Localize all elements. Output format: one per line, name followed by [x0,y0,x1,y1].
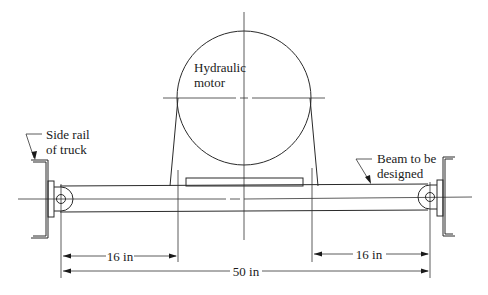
label-side-rail: Side rail of truck [26,127,90,160]
dim-left-label: 16 in [107,249,134,264]
svg-text:designed: designed [377,166,424,181]
right-side-rail [418,157,455,278]
svg-text:Hydraulic: Hydraulic [194,60,246,75]
motor-support-right [310,98,318,186]
motor-support-left [170,98,178,186]
leader-arrow-icon [365,175,371,184]
dim-right-label: 16 in [356,247,383,262]
dimension-left-16in: 16 in [63,249,177,264]
beam-motor-diagram: 16 in 16 in 50 in Hydraulic motor Side r… [0,0,488,295]
right-bracket [437,180,443,216]
arrow-right-icon [421,252,429,257]
arrow-right-icon [169,254,177,259]
label-hydraulic-motor: Hydraulic motor [194,60,246,90]
beam [18,184,472,212]
dim-total-label: 50 in [233,264,260,279]
left-side-rail [31,160,73,278]
svg-text:Beam to be: Beam to be [377,151,436,166]
dimension-total-50in: 50 in [63,264,429,279]
svg-text:of truck: of truck [46,142,87,157]
arrow-left-icon [314,252,322,257]
svg-text:motor: motor [194,75,226,90]
hydraulic-motor [163,12,325,240]
beam-centerline-right [244,197,472,199]
arrow-left-icon [63,254,71,259]
leader-arrow-icon [32,151,38,160]
arrow-left-icon [63,269,71,274]
dimension-right-16in: 16 in [314,247,429,262]
arrow-right-icon [421,269,429,274]
label-beam: Beam to be designed [356,151,436,184]
svg-text:Side rail: Side rail [46,127,90,142]
